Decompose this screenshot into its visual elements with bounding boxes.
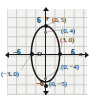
point-vertex-top: [44, 24, 48, 28]
point-focus-top: [44, 31, 47, 34]
label-covertex-right: (3, 0): [60, 36, 74, 44]
label-vertex-bottom: (0, −5): [49, 80, 67, 88]
label-focus-bottom: (0, −4): [61, 63, 79, 71]
y-axis-tick-label-negative: −6: [36, 80, 44, 88]
x-axis-tick-label-positive: 6: [71, 49, 75, 57]
point-focus-bottom: [44, 77, 47, 80]
label-focus-top: (0, 4): [61, 27, 75, 35]
ellipse-graph-figure: 6 −6 −6 6 y x O (0, 5) (0, 4) (3, 0) (0,…: [0, 0, 92, 100]
y-axis-tick-label-positive: 6: [37, 17, 41, 25]
point-vertex-bottom: [44, 84, 48, 88]
point-covertex-right: [58, 52, 62, 56]
x-axis-label: x: [79, 50, 82, 58]
y-axis-label: y: [46, 14, 49, 22]
label-vertex-top: (0, 5): [52, 16, 66, 24]
origin-label: O: [37, 50, 42, 58]
point-covertex-left: [30, 52, 34, 56]
x-axis-tick-label-negative: −6: [13, 49, 21, 57]
label-covertex-left: (−3, 0): [1, 70, 19, 78]
